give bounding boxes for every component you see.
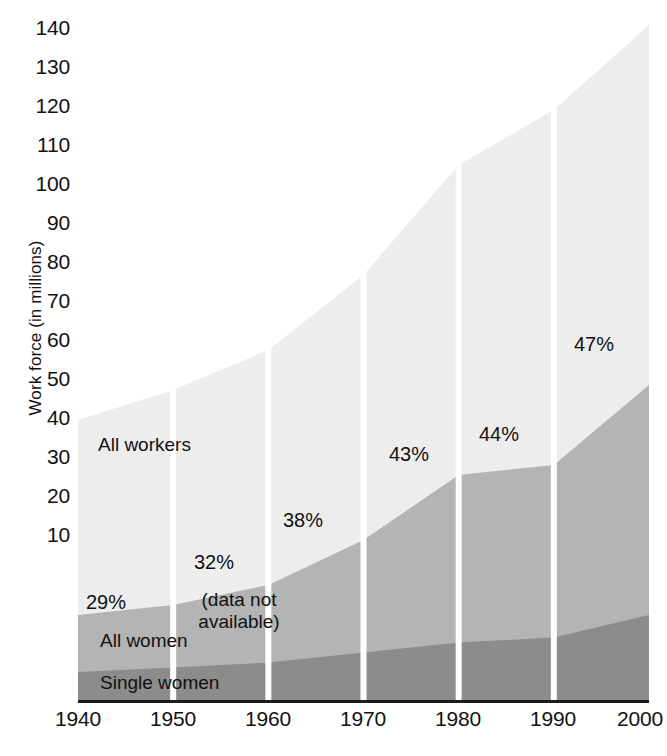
y-tick-100: 100 <box>4 173 70 194</box>
series-label-all-workers: All workers <box>98 434 191 456</box>
y-tick-40: 40 <box>4 407 70 428</box>
annotation-pct-1940: 29% <box>86 591 126 613</box>
data-not-available-line-1: (data not <box>202 589 277 610</box>
x-axis-line <box>78 700 649 703</box>
y-tick-50: 50 <box>4 368 70 389</box>
annotation-pct-1960: 32% <box>194 551 234 573</box>
annotation-pct-1970: 38% <box>283 509 323 531</box>
x-tick-2000: 2000 <box>595 706 667 732</box>
decade-separator-1970 <box>361 0 367 700</box>
decade-separator-1980 <box>456 0 462 700</box>
y-tick-30: 30 <box>4 446 70 467</box>
y-tick-20: 20 <box>4 485 70 506</box>
y-tick-120: 120 <box>4 95 70 116</box>
y-tick-10: 10 <box>4 524 70 545</box>
x-tick-1950: 1950 <box>128 706 218 732</box>
annotation-pct-1990: 44% <box>479 423 519 445</box>
y-tick-60: 60 <box>4 329 70 350</box>
y-tick-140: 140 <box>4 17 70 38</box>
stacked-area-svg <box>78 0 649 700</box>
annotation-data-not-available: (data not available) <box>174 589 304 633</box>
series-label-single-women: Single women <box>100 672 219 694</box>
decade-separator-1990 <box>551 0 557 700</box>
y-tick-70: 70 <box>4 290 70 311</box>
annotation-pct-2000: 47% <box>574 333 614 355</box>
x-tick-1960: 1960 <box>223 706 313 732</box>
x-axis-tick-labels: 1940 1950 1960 1970 1980 1990 2000 <box>0 706 649 746</box>
y-tick-110: 110 <box>4 134 70 155</box>
series-label-all-women: All women <box>100 630 188 652</box>
y-tick-80: 80 <box>4 251 70 272</box>
x-tick-1970: 1970 <box>318 706 408 732</box>
x-tick-1980: 1980 <box>413 706 503 732</box>
x-tick-1940: 1940 <box>33 706 123 732</box>
plot-area: All workers All women Single women 29% 3… <box>78 0 649 700</box>
x-tick-1990: 1990 <box>508 706 598 732</box>
data-not-available-line-2: available) <box>198 611 279 632</box>
y-tick-90: 90 <box>4 212 70 233</box>
annotation-pct-1980: 43% <box>389 443 429 465</box>
y-tick-130: 130 <box>4 56 70 77</box>
y-axis-tick-labels: 140 130 120 110 100 90 80 70 60 50 40 30… <box>0 0 70 756</box>
